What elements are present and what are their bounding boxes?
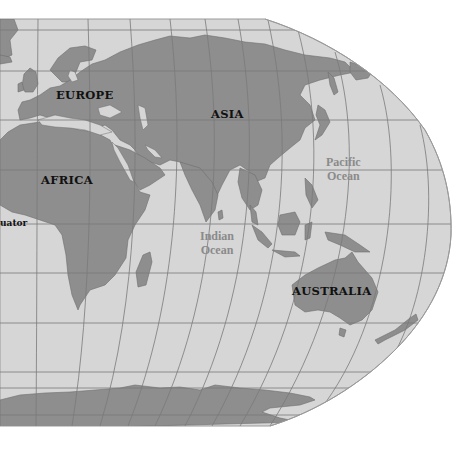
sri-lanka xyxy=(218,210,223,220)
indian-ocean-line1: Indian xyxy=(200,229,234,243)
label-asia: ASIA xyxy=(211,109,244,121)
label-equator: uator xyxy=(0,219,27,228)
label-indian-ocean: Indian Ocean xyxy=(200,229,234,257)
indian-ocean-line2: Ocean xyxy=(200,243,234,257)
label-europe: EUROPE xyxy=(56,90,114,102)
label-australia: AUSTRALIA xyxy=(292,286,371,298)
pacific-ocean-line2: Ocean xyxy=(326,169,361,183)
label-pacific-ocean: Pacific Ocean xyxy=(326,155,361,183)
label-africa: AFRICA xyxy=(41,175,93,187)
pacific-ocean-line1: Pacific xyxy=(326,155,361,169)
world-map xyxy=(0,0,472,453)
